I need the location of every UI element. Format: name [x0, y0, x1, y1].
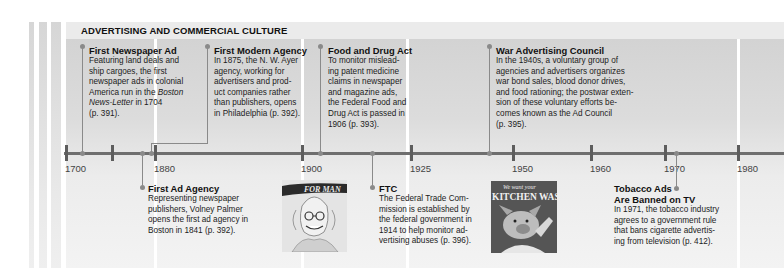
event-text-line: the Federal Food and — [328, 98, 423, 109]
event-food-and-drug-act: Food and Drug Act To monitor mislead- in… — [328, 45, 423, 130]
connector-line — [151, 143, 208, 144]
event-title: First Modern Agency — [214, 45, 312, 56]
connector-line — [207, 46, 208, 143]
axis-tick — [65, 145, 68, 161]
event-text-line: uct companies rather — [214, 88, 312, 99]
event-text-line: In the 1940s, a voluntary group of — [496, 56, 666, 67]
axis-tick-label: 1950 — [512, 163, 533, 174]
event-text-line: In 1875, the N. W. Ayer — [214, 56, 312, 67]
event-text-line: opens the first ad agency in — [148, 215, 268, 226]
event-text-line: 1906 (p. 393). — [328, 120, 423, 131]
event-text-line: war bond sales, blood donor drives, — [496, 77, 666, 88]
decorative-stripe-1 — [29, 22, 34, 268]
event-text-line: ship cargoes, the first — [89, 67, 199, 78]
magazine-cover-caricature-image: FOR MAN — [282, 180, 347, 252]
connector-line — [82, 46, 83, 153]
event-text-line: that bans cigarette advertis- — [614, 226, 734, 237]
event-title: Food and Drug Act — [328, 45, 423, 56]
event-title: First Ad Agency — [148, 183, 268, 194]
event-first-newspaper-ad: First Newspaper Ad Featuring land deals … — [89, 45, 199, 120]
axis-tick-label: 1880 — [154, 163, 175, 174]
event-text-line: vertising abuses (p. 396). — [379, 236, 479, 247]
event-text-line: agrees to a government rule — [614, 216, 734, 227]
axis-tick-label: 1900 — [301, 163, 322, 174]
decorative-stripe-2 — [39, 22, 47, 268]
axis-event-dot — [487, 151, 492, 156]
axis-tick-label: 1925 — [410, 163, 431, 174]
event-first-ad-agency: First Ad Agency Representing newspaper p… — [148, 183, 268, 236]
event-text-line: Representing newspaper — [148, 194, 268, 205]
event-text-line: comes known as the Ad Council — [496, 109, 666, 120]
event-title: Tobacco Ads — [614, 183, 734, 194]
event-text-line: claims in newspaper — [328, 77, 423, 88]
connector-line — [676, 153, 677, 186]
event-title: First Newspaper Ad — [89, 45, 199, 56]
cover-masthead: FOR MAN — [303, 185, 342, 194]
event-text-line: 1914 to help monitor ad- — [379, 226, 479, 237]
event-first-modern-agency: First Modern Agency In 1875, the N. W. A… — [214, 45, 312, 120]
poster-subtitle: We want your — [503, 184, 536, 190]
axis-tick-label: 1970 — [664, 163, 685, 174]
event-text-line: publishers, Volney Palmer — [148, 205, 268, 216]
axis-tick — [512, 145, 515, 161]
event-title: FTC — [379, 183, 479, 194]
axis-tick-label: 1980 — [737, 163, 758, 174]
event-text-line: America run in the — [89, 88, 158, 97]
event-text-line: in 1704 — [133, 98, 162, 107]
decorative-stripe-3 — [51, 22, 61, 268]
publication-name: Boston — [158, 88, 184, 97]
axis-tick-label: 1700 — [65, 163, 86, 174]
axis-event-dot — [80, 151, 85, 156]
event-title: War Advertising Council — [496, 45, 666, 56]
axis-tick — [154, 145, 157, 161]
event-text-line: and magazine ads, — [328, 88, 423, 99]
event-text-line: ing from television (p. 412). — [614, 237, 734, 248]
event-text-line: mission is established by — [379, 205, 479, 216]
connector-line — [320, 46, 321, 153]
axis-tick — [590, 145, 593, 161]
event-text-line: Featuring land deals and — [89, 56, 199, 67]
event-title: Are Banned on TV — [614, 194, 734, 205]
axis-event-dot — [149, 151, 154, 156]
event-text-line: Drug Act is passed in — [328, 109, 423, 120]
event-text-line: sion of these voluntary efforts be- — [496, 98, 666, 109]
event-text-line: agency, working for — [214, 67, 312, 78]
axis-tick — [737, 145, 740, 161]
event-text-line: advertisers and prod- — [214, 77, 312, 88]
event-ftc: FTC The Federal Trade Com- mission is es… — [379, 183, 479, 247]
event-text-line: To monitor mislead- — [328, 56, 423, 67]
event-marker-dot — [140, 185, 145, 190]
connector-line — [489, 46, 490, 153]
axis-tick-label: 1960 — [590, 163, 611, 174]
axis-tick — [301, 145, 304, 161]
section-title: ADVERTISING AND COMMERCIAL CULTURE — [81, 25, 287, 36]
event-text-line: ing patent medicine — [328, 67, 423, 78]
page-reference: (p. 391). — [89, 109, 199, 120]
publication-name: News-Letter — [89, 98, 133, 107]
event-tobacco-ads-banned: Tobacco Ads Are Banned on TV In 1971, th… — [614, 183, 734, 247]
event-text-line: (p. 395). — [496, 120, 666, 131]
event-text-line: newspaper ads in colonial — [89, 77, 199, 88]
event-text-line: The Federal Trade Com- — [379, 194, 479, 205]
axis-tick — [664, 145, 667, 161]
event-text-line: than publishers, opens — [214, 98, 312, 109]
event-marker-dot — [370, 185, 375, 190]
event-text-line: the federal government in — [379, 215, 479, 226]
kitchen-waste-poster-image: We want your KITCHEN WASTE — [491, 181, 557, 253]
event-text-line: agencies and advertisers organizes — [496, 67, 666, 78]
axis-event-dot — [318, 151, 323, 156]
connector-line — [372, 153, 373, 185]
poster-headline: KITCHEN WASTE — [492, 192, 557, 202]
connector-line — [142, 153, 143, 185]
event-text-line: and food rationing; the postwar exten- — [496, 88, 666, 99]
axis-tick — [111, 145, 114, 161]
event-war-advertising-council: War Advertising Council In the 1940s, a … — [496, 45, 666, 130]
event-text-line: In 1971, the tobacco industry — [614, 205, 734, 216]
event-text-line: in Philadelphia (p. 392). — [214, 109, 312, 120]
axis-tick — [410, 145, 413, 161]
event-text-line: Boston in 1841 (p. 392). — [148, 226, 268, 237]
